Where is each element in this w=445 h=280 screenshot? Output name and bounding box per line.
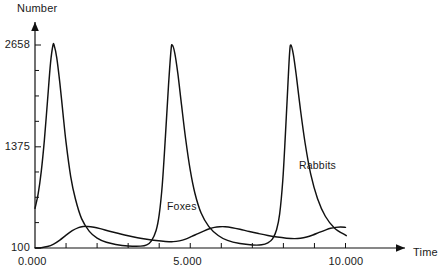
lotka-volterra-chart: Number Time Rabbits Foxes 0.0005.00010.0… [0,0,445,280]
y-axis-title: Number [17,2,57,14]
y-tick-label: 100 [0,241,30,253]
y-tick-marks [35,45,41,248]
series-path-rabbits [35,43,346,246]
x-tick-label: 5.000 [173,255,202,267]
x-tick-label: 10.000 [329,255,364,267]
x-tick-label: 0.000 [18,255,47,267]
y-tick-label: 1375 [0,140,30,152]
series-label-rabbits: Rabbits [299,159,336,171]
series-label-foxes: Foxes [167,200,197,212]
x-tick-marks [66,243,345,248]
x-axis-title: Time [413,246,438,258]
y-tick-label: 2658 [0,38,30,50]
x-axis-arrow-icon [396,244,405,252]
axes-group [31,22,405,252]
series-paths [35,43,346,248]
chart-canvas [0,0,445,280]
y-axis-arrow-icon [31,22,39,31]
